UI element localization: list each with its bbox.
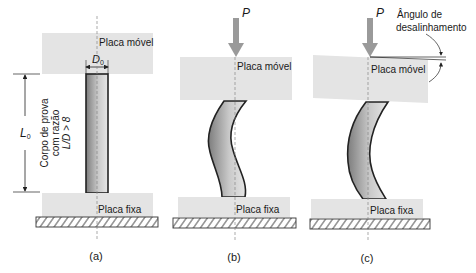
- caption-a: (a): [89, 250, 102, 262]
- ground-base: [173, 218, 296, 228]
- compression-buckling-diagram: Placa móvel D0 Placa fixa L0 Corpo de pr…: [0, 0, 476, 273]
- svg-text:Corpo de prova: Corpo de prova: [39, 98, 50, 167]
- buckled-specimen: [208, 101, 246, 197]
- ground-base: [310, 219, 430, 229]
- movable-plate-label: Placa móvel: [237, 61, 291, 72]
- panel-b: P Placa móvel Placa fixa (b): [173, 6, 296, 263]
- movable-plate-label: Placa móvel: [371, 64, 425, 75]
- fixed-plate-label: Placa fixa: [98, 204, 142, 215]
- misalignment-label-line2: desalinhamento: [396, 22, 467, 33]
- load-label: P: [242, 6, 250, 20]
- fixed-plate-label: Placa fixa: [370, 205, 414, 216]
- panel-c: P Ângulo de desalinhamento Placa móvel P…: [310, 6, 467, 264]
- length-label: L0: [20, 126, 31, 140]
- misalignment-label-line1: Ângulo de: [397, 8, 442, 20]
- caption-c: (c): [361, 252, 374, 264]
- movable-plate-label: Placa móvel: [99, 37, 153, 48]
- fixed-plate-label: Placa fixa: [236, 204, 280, 215]
- load-arrow-head: [362, 43, 378, 57]
- movable-plate-tilted: [313, 55, 428, 103]
- load-arrow-head: [228, 43, 244, 57]
- caption-b: (b): [227, 251, 240, 263]
- load-arrow-shaft: [367, 18, 373, 44]
- svg-text:com razão: com razão: [50, 109, 61, 156]
- panel-a: Placa móvel D0 Placa fixa L0 Corpo de pr…: [13, 16, 158, 262]
- svg-text:L/D > 8: L/D > 8: [61, 116, 72, 149]
- load-arrow-shaft: [233, 18, 239, 44]
- load-label: P: [376, 6, 384, 20]
- misalignment-arrow-bottom: [429, 63, 441, 82]
- misalignment-arrow-top: [426, 34, 441, 55]
- specimen-label: Corpo de prova com razão L/D > 8: [39, 98, 72, 167]
